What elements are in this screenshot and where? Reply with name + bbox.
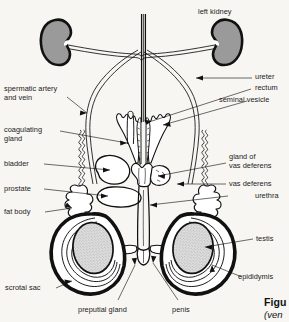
label-spermatic-artery-line2: and vein xyxy=(4,94,32,103)
label-coagulating-gland-line2: gland xyxy=(4,135,22,144)
label-preputial-gland: preputial gland xyxy=(78,306,127,315)
label-seminal-vesicle: seminal vesicle xyxy=(219,96,269,105)
left-kidney-shape xyxy=(212,20,242,65)
label-fat-body: fat body xyxy=(4,208,30,217)
label-gland-of-vas-line2: vas deferens xyxy=(229,162,272,171)
figure-caption-subtitle: (ven xyxy=(264,309,282,320)
label-scrotal-sac: scrotal sac xyxy=(5,284,41,293)
figure-caption-title: Figu xyxy=(264,296,287,308)
figure-page: left kidney ureter rectum seminal vesicl… xyxy=(0,0,289,322)
label-bladder: bladder xyxy=(4,160,29,169)
gland-of-vas-deferens-shape xyxy=(131,163,152,186)
label-vas-deferens: vas deferens xyxy=(229,180,272,189)
label-ureter: ureter xyxy=(255,73,274,82)
label-testis: testis xyxy=(256,235,273,244)
bladder-shape xyxy=(96,155,130,184)
right-kidney-shape xyxy=(41,20,71,65)
penis-shape xyxy=(137,248,150,265)
label-urethra: urethra xyxy=(255,192,279,201)
label-rectum: rectum xyxy=(255,84,278,93)
label-prostate: prostate xyxy=(4,185,31,194)
label-epididymis: epididymis xyxy=(238,273,273,282)
label-penis: penis xyxy=(172,306,190,315)
label-left-kidney: left kidney xyxy=(198,8,232,17)
rectum-shape xyxy=(142,14,146,122)
